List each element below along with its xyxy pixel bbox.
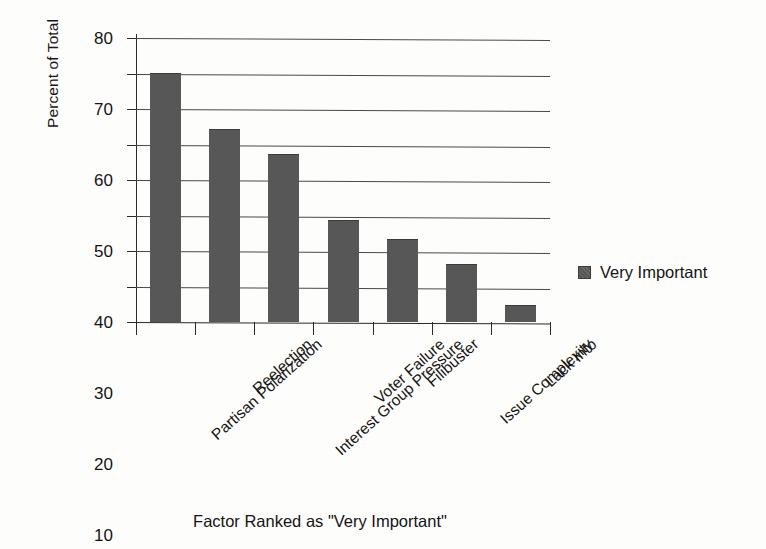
- y-axis-tick: 30: [127, 216, 136, 217]
- y-axis-tick-label: 70: [94, 101, 113, 118]
- gridline: [136, 74, 550, 77]
- gridline: [136, 109, 550, 112]
- y-axis-tick: 20: [127, 251, 136, 252]
- gridline: [136, 38, 550, 41]
- legend-swatch-icon: [578, 266, 591, 279]
- y-axis-tick-label: 20: [94, 456, 113, 473]
- bar: [505, 305, 536, 322]
- gridline: [136, 216, 550, 219]
- y-axis-tick: 80: [127, 38, 136, 39]
- x-axis-title: Factor Ranked as "Very Important": [0, 512, 640, 531]
- bar: [387, 239, 418, 322]
- x-axis-tick: [550, 322, 551, 335]
- legend: Very Important: [578, 264, 707, 281]
- y-axis-tick: 50: [127, 145, 136, 146]
- legend-label-very-important: Very Important: [600, 264, 707, 281]
- plot-area: 01020304050607080: [136, 38, 550, 322]
- gridline: [136, 145, 550, 148]
- bar: [328, 220, 359, 322]
- y-axis-tick-label: 30: [94, 385, 113, 402]
- y-axis-tick: 40: [127, 180, 136, 181]
- x-axis-tick: [491, 322, 492, 335]
- x-axis-line: [128, 322, 550, 324]
- x-axis-category-label: Interest Group Pressure: [332, 336, 465, 458]
- x-axis-tick: [254, 322, 255, 335]
- x-axis-category-label: Lack Info: [543, 336, 600, 390]
- x-axis-tick: [136, 322, 137, 335]
- y-axis-tick-label: 50: [94, 243, 113, 260]
- x-axis-tick: [373, 322, 374, 335]
- x-axis-tick: [313, 322, 314, 335]
- y-axis-tick-label: 60: [94, 172, 113, 189]
- bar-chart: Percent of Total 01020304050607080 Parti…: [0, 0, 766, 549]
- bar: [446, 264, 477, 322]
- bar: [209, 129, 240, 322]
- y-axis-tick: 0: [127, 322, 136, 323]
- y-axis-title: Percent of Total: [44, 0, 62, 128]
- x-axis-tick: [432, 322, 433, 335]
- bar: [268, 154, 299, 322]
- bar: [150, 73, 181, 323]
- y-axis-tick: 60: [127, 109, 136, 110]
- y-axis-tick: 70: [127, 74, 136, 75]
- gridline: [136, 180, 550, 183]
- x-axis-tick: [195, 322, 196, 335]
- y-axis-tick-label: 40: [94, 314, 113, 331]
- x-axis-category-label: Reelection: [250, 336, 315, 397]
- y-axis-tick-label: 80: [94, 30, 113, 47]
- y-axis-tick: 10: [127, 287, 136, 288]
